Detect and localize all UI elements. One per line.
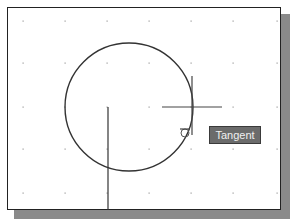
- grid-dot: [149, 193, 150, 194]
- grid-dot: [149, 63, 150, 64]
- grid-dot: [149, 107, 150, 108]
- grid-dot: [233, 193, 234, 194]
- grid-dot: [277, 21, 278, 22]
- grid-dot: [233, 149, 234, 150]
- grid-dot: [277, 193, 278, 194]
- grid-dot: [23, 149, 24, 150]
- grid-dot: [107, 21, 108, 22]
- grid-dot: [65, 193, 66, 194]
- grid-dot: [23, 107, 24, 108]
- grid-dot: [277, 107, 278, 108]
- grid-dot: [191, 149, 192, 150]
- grid-dot: [277, 149, 278, 150]
- grid-dot: [23, 63, 24, 64]
- grid-dot: [65, 149, 66, 150]
- drawing-area[interactable]: [0, 0, 294, 222]
- grid-dot: [149, 149, 150, 150]
- grid-dot: [65, 63, 66, 64]
- grid-dot: [107, 63, 108, 64]
- grid-dot: [65, 21, 66, 22]
- grid-dot: [191, 193, 192, 194]
- grid-dot: [233, 21, 234, 22]
- osnap-tooltip: Tangent: [209, 126, 261, 144]
- grid-dot: [233, 107, 234, 108]
- grid-dot: [191, 21, 192, 22]
- grid-dot: [277, 63, 278, 64]
- tangent-snap-marker-icon: [180, 129, 190, 137]
- grid-dot: [191, 63, 192, 64]
- grid-dot: [23, 21, 24, 22]
- grid-dot: [23, 193, 24, 194]
- grid-dot: [233, 63, 234, 64]
- grid-dot: [149, 21, 150, 22]
